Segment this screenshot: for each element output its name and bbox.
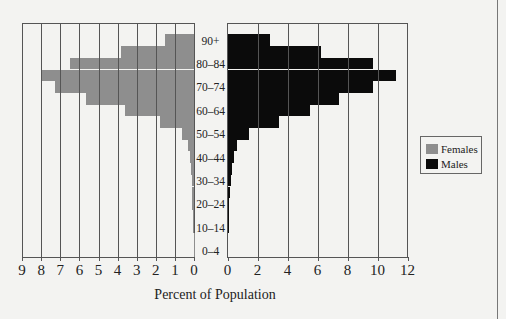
gridline bbox=[318, 23, 319, 257]
x-tick bbox=[318, 257, 319, 261]
x-tick bbox=[99, 257, 100, 261]
gridline bbox=[288, 23, 289, 257]
x-tick bbox=[22, 257, 23, 261]
gridline bbox=[118, 23, 119, 257]
female-bar bbox=[125, 105, 194, 117]
x-tick bbox=[258, 257, 259, 261]
females-swatch-icon bbox=[426, 144, 438, 154]
x-tick-label: 12 bbox=[398, 262, 418, 279]
female-bar bbox=[194, 233, 195, 245]
x-tick bbox=[41, 257, 42, 261]
male-bar bbox=[228, 210, 229, 222]
x-tick bbox=[137, 257, 138, 261]
x-tick-label: 0 bbox=[218, 262, 238, 279]
x-tick bbox=[175, 257, 176, 261]
x-tick-label: 2 bbox=[248, 262, 268, 279]
legend-item-males: Males bbox=[426, 158, 468, 170]
gridline bbox=[378, 23, 379, 257]
x-tick-label: 2 bbox=[146, 262, 166, 279]
x-tick bbox=[156, 257, 157, 261]
legend-label-females: Females bbox=[441, 143, 478, 155]
female-bar bbox=[55, 81, 194, 93]
male-bar bbox=[228, 187, 230, 199]
male-bar bbox=[228, 58, 374, 70]
x-tick bbox=[194, 257, 195, 261]
gridline bbox=[156, 23, 157, 257]
x-tick-label: 5 bbox=[89, 262, 109, 279]
gridline bbox=[175, 23, 176, 257]
age-group-label: 90+ bbox=[194, 35, 227, 47]
legend-item-females: Females bbox=[426, 143, 478, 155]
x-tick bbox=[378, 257, 379, 261]
gridline bbox=[41, 23, 42, 257]
male-bar bbox=[228, 116, 279, 128]
x-axis-title: Percent of Population bbox=[110, 287, 320, 303]
x-tick-label: 6 bbox=[69, 262, 89, 279]
gridline bbox=[258, 23, 259, 257]
x-tick-label: 10 bbox=[368, 262, 388, 279]
age-group-label: 60–64 bbox=[194, 105, 227, 117]
male-bar bbox=[228, 81, 374, 93]
gridline bbox=[348, 23, 349, 257]
male-bar bbox=[228, 34, 270, 46]
male-bar bbox=[228, 140, 238, 152]
female-bar bbox=[121, 46, 194, 58]
age-group-label: 20–24 bbox=[194, 198, 227, 210]
x-tick bbox=[348, 257, 349, 261]
x-tick-label: 3 bbox=[127, 262, 147, 279]
gridline bbox=[137, 23, 138, 257]
age-group-label: 0–4 bbox=[194, 245, 227, 257]
age-group-label: 70–74 bbox=[194, 81, 227, 93]
age-group-label: 40–44 bbox=[194, 152, 227, 164]
female-bar bbox=[192, 187, 194, 199]
age-group-label: 10–14 bbox=[194, 222, 227, 234]
legend: Females Males bbox=[420, 136, 482, 174]
female-bar bbox=[165, 34, 194, 46]
male-bar bbox=[228, 175, 231, 187]
male-bar bbox=[228, 222, 229, 234]
male-bar bbox=[228, 46, 322, 58]
x-tick-label: 1 bbox=[165, 262, 185, 279]
x-tick-label: 8 bbox=[338, 262, 358, 279]
x-tick bbox=[408, 257, 409, 261]
gridline bbox=[79, 23, 80, 257]
female-bar bbox=[182, 128, 194, 140]
female-bar bbox=[193, 210, 194, 222]
page-border-line bbox=[497, 0, 498, 319]
x-tick-label: 7 bbox=[50, 262, 70, 279]
x-tick-label: 4 bbox=[108, 262, 128, 279]
females-x-axis bbox=[22, 257, 195, 258]
male-bar bbox=[228, 151, 235, 163]
x-tick-label: 4 bbox=[278, 262, 298, 279]
female-bar bbox=[191, 163, 194, 175]
age-group-label: 80–84 bbox=[194, 58, 227, 70]
x-tick-label: 6 bbox=[308, 262, 328, 279]
gridline bbox=[99, 23, 100, 257]
x-tick-label: 8 bbox=[31, 262, 51, 279]
x-tick bbox=[60, 257, 61, 261]
gridline bbox=[60, 23, 61, 257]
x-tick-label: 0 bbox=[184, 262, 204, 279]
age-group-label: 50–54 bbox=[194, 128, 227, 140]
legend-label-males: Males bbox=[441, 158, 468, 170]
x-tick bbox=[118, 257, 119, 261]
female-bar bbox=[86, 93, 194, 105]
female-bar bbox=[160, 116, 194, 128]
female-bar bbox=[188, 140, 194, 152]
male-bar bbox=[228, 198, 230, 210]
male-bar bbox=[228, 93, 339, 105]
male-bar bbox=[228, 128, 249, 140]
male-bar bbox=[228, 70, 396, 82]
age-group-label: 30–34 bbox=[194, 175, 227, 187]
x-tick bbox=[228, 257, 229, 261]
x-tick bbox=[79, 257, 80, 261]
males-swatch-icon bbox=[426, 159, 438, 169]
male-bar bbox=[228, 163, 233, 175]
x-tick-label: 9 bbox=[12, 262, 32, 279]
x-tick bbox=[288, 257, 289, 261]
male-bar bbox=[228, 105, 311, 117]
